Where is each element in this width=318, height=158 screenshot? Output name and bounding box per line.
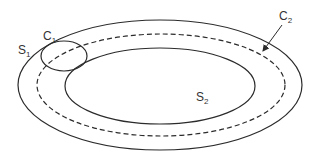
c2-pointer-arrow (263, 25, 282, 51)
diagram-canvas: S1 C1 C2 S2 (0, 0, 318, 158)
label-s1: S1 (18, 43, 31, 59)
region-diagram: S1 C1 C2 S2 (0, 0, 318, 158)
small-circle-c1 (41, 41, 87, 71)
label-s2: S2 (196, 90, 209, 106)
label-c1: C1 (43, 29, 57, 45)
dashed-curve-c2 (37, 34, 285, 136)
outer-boundary-ellipse (18, 20, 302, 150)
inner-boundary-s2 (65, 48, 255, 124)
label-c2: C2 (279, 9, 293, 25)
